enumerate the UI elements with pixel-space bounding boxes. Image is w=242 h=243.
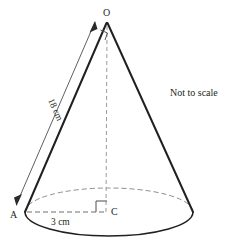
cone-axis-line bbox=[106, 26, 107, 212]
base-radius-label: 3 cm bbox=[51, 218, 70, 228]
slant-dimension-arrowhead-top bbox=[90, 21, 98, 33]
cone-figure: O A C 18 cm 3 cm Not to scale bbox=[0, 0, 242, 243]
vertex-label-base-point: A bbox=[10, 210, 17, 220]
right-angle-mark-center bbox=[96, 201, 107, 212]
vertex-label-base-center: C bbox=[111, 207, 118, 217]
not-to-scale-note: Not to scale bbox=[170, 88, 218, 98]
vertex-label-apex: O bbox=[103, 8, 110, 18]
slant-edge-right bbox=[108, 23, 194, 212]
slant-edge-left bbox=[25, 23, 107, 212]
cone-drawing bbox=[0, 0, 242, 243]
base-ellipse-back-arc bbox=[25, 188, 193, 212]
slant-dimension-arrowhead-bottom bbox=[14, 194, 22, 206]
